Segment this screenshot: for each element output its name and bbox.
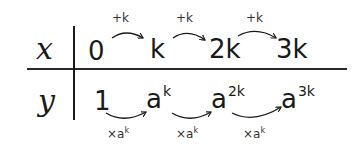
x-arrow-0 (112, 33, 143, 38)
y-arrow-1 (172, 112, 211, 118)
y-arrow-0 (106, 112, 146, 118)
x-arrow-1 (173, 33, 205, 40)
step-arrows (0, 0, 359, 157)
x-arrow-2 (238, 31, 276, 38)
y-arrow-2 (232, 107, 281, 117)
